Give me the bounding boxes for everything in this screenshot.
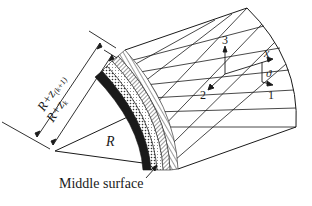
shell-diagram: R+z(k+1) R+zk R Middle surface 3 2 x ϑ 1 bbox=[0, 0, 312, 206]
middle-surface-label: Middle surface bbox=[59, 176, 143, 191]
axis-1-arrow bbox=[267, 81, 273, 86]
outer-ext-line bbox=[89, 31, 116, 48]
axis-1-label: 1 bbox=[268, 88, 274, 102]
radius-line bbox=[55, 114, 134, 151]
top-edge bbox=[125, 8, 247, 50]
radius-bottom-line bbox=[55, 151, 143, 163]
angle-label: ϑ bbox=[266, 67, 272, 79]
axis-3-label: 3 bbox=[222, 33, 228, 47]
axis-2-label: 2 bbox=[200, 88, 206, 102]
radius-label: R bbox=[105, 134, 115, 149]
bottom-edge bbox=[178, 127, 296, 169]
diagram-stage: R+z(k+1) R+zk R Middle surface 3 2 x ϑ 1 bbox=[0, 0, 312, 206]
axis-x-line bbox=[225, 60, 270, 74]
center-ext-line bbox=[2, 122, 50, 149]
axis-x-label: x bbox=[263, 46, 270, 60]
axis-2-line bbox=[211, 74, 225, 87]
